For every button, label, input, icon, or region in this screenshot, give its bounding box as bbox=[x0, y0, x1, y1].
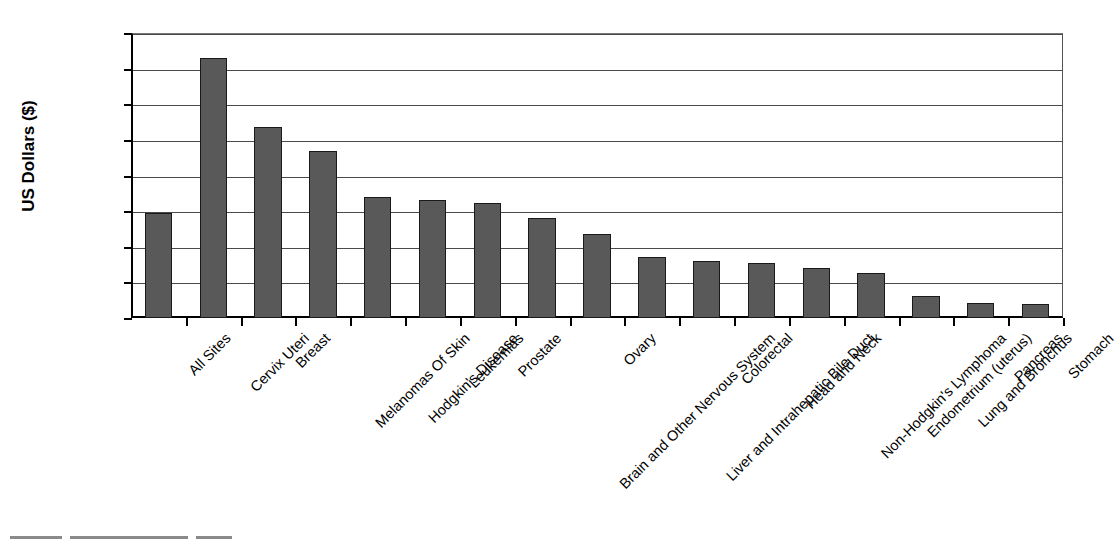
y-axis-title: US Dollars ($) bbox=[19, 51, 39, 261]
x-tick-mark bbox=[241, 318, 243, 326]
x-tick-mark bbox=[186, 318, 188, 326]
bar bbox=[419, 200, 446, 318]
x-tick-label: Non-Hodgkin's Lymphoma bbox=[878, 330, 1009, 461]
bar bbox=[748, 263, 775, 318]
x-tick-mark bbox=[1008, 318, 1010, 326]
bar bbox=[693, 261, 720, 318]
x-tick-mark bbox=[460, 318, 462, 326]
bar bbox=[254, 127, 281, 318]
bar bbox=[200, 58, 227, 318]
x-tick-mark bbox=[295, 318, 297, 326]
bar bbox=[1022, 304, 1049, 318]
x-tick-label: Leukemias bbox=[465, 330, 526, 391]
bar bbox=[857, 273, 884, 318]
bar bbox=[912, 296, 939, 318]
x-tick-mark bbox=[405, 318, 407, 326]
x-tick-label: Head and Neck bbox=[803, 330, 885, 412]
bar bbox=[967, 303, 994, 318]
bar bbox=[364, 197, 391, 318]
x-tick-mark bbox=[515, 318, 517, 326]
bar bbox=[583, 234, 610, 318]
x-tick-mark bbox=[734, 318, 736, 326]
x-tick-mark bbox=[624, 318, 626, 326]
scan-artifact-2 bbox=[70, 536, 188, 539]
x-tick-mark bbox=[953, 318, 955, 326]
bar bbox=[145, 213, 172, 318]
scan-artifact-1 bbox=[10, 536, 62, 539]
x-tick-label: Ovary bbox=[620, 330, 659, 369]
x-tick-label: All Sites bbox=[186, 330, 234, 378]
bars-layer bbox=[131, 33, 1063, 318]
y-tick-mark bbox=[124, 318, 132, 320]
bar bbox=[474, 203, 501, 318]
bar bbox=[309, 151, 336, 318]
x-tick-mark bbox=[789, 318, 791, 326]
x-tick-mark bbox=[1063, 318, 1065, 326]
x-tick-mark bbox=[679, 318, 681, 326]
bar bbox=[803, 268, 830, 318]
x-tick-mark bbox=[844, 318, 846, 326]
bar bbox=[638, 257, 665, 318]
x-tick-mark bbox=[899, 318, 901, 326]
scan-artifact-3 bbox=[196, 536, 232, 539]
x-tick-mark bbox=[350, 318, 352, 326]
bar bbox=[528, 218, 555, 318]
x-tick-mark bbox=[570, 318, 572, 326]
